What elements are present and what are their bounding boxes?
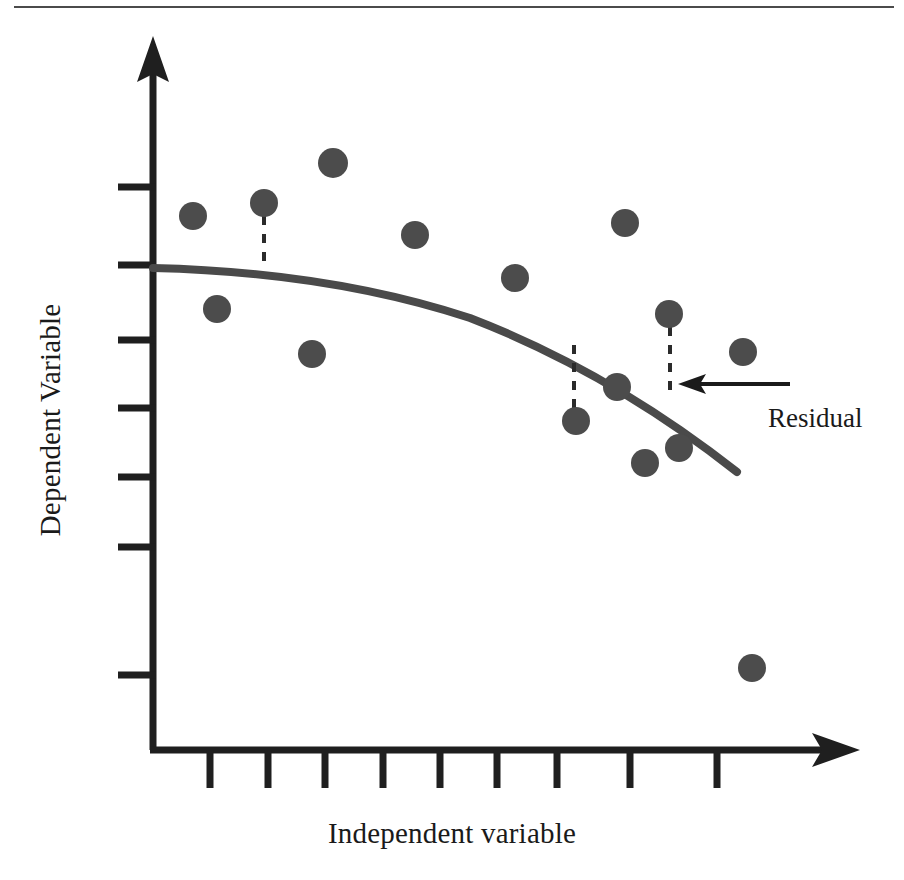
- figure-container: Dependent Variable Independent variable …: [0, 0, 904, 880]
- x-axis-label: Independent variable: [328, 817, 576, 850]
- data-points: [179, 148, 766, 682]
- data-point: [729, 338, 757, 366]
- residual-annotation-arrow-icon: [678, 374, 790, 394]
- data-point: [603, 373, 631, 401]
- data-point: [665, 434, 693, 462]
- data-point: [203, 295, 231, 323]
- data-point: [562, 407, 590, 435]
- data-point: [179, 202, 207, 230]
- data-point: [501, 264, 529, 292]
- fitted-curve: [153, 268, 737, 472]
- x-axis-ticks: [210, 750, 717, 788]
- residual-annotation-label: Residual: [768, 403, 863, 434]
- scatter-plot-canvas: [0, 0, 904, 880]
- data-point: [738, 654, 766, 682]
- data-point: [298, 340, 326, 368]
- data-point: [250, 189, 278, 217]
- data-point: [611, 209, 639, 237]
- data-point: [318, 148, 348, 178]
- data-point: [655, 300, 683, 328]
- data-point: [631, 449, 659, 477]
- data-point: [401, 221, 429, 249]
- y-axis-label: Dependent Variable: [34, 304, 67, 537]
